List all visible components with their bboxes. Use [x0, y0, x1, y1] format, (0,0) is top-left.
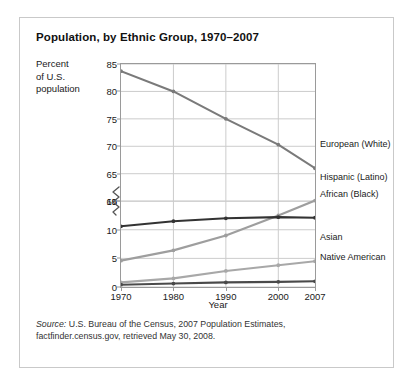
y-axis-tick-label: 10: [106, 224, 117, 235]
figure-title: Population, by Ethnic Group, 1970–2007: [36, 31, 259, 43]
y-axis-tick-mark: [117, 64, 121, 65]
y-axis-tick-label: 65: [106, 168, 117, 179]
chart-canvas: [121, 64, 315, 287]
y-axis-caption: Percent of U.S. population: [36, 58, 98, 96]
source-note: Source: U.S. Bureau of the Census, 2007 …: [36, 318, 366, 342]
y-axis-tick-label: 85: [106, 59, 117, 70]
source-label: Source:: [36, 319, 66, 329]
series-label-native-american: Native American: [320, 252, 386, 262]
y-axis-tick-label: 80: [106, 86, 117, 97]
x-axis-title: Year: [120, 299, 316, 310]
y-axis-tick-mark: [117, 118, 121, 119]
series-label-african-black: African (Black): [320, 189, 379, 199]
figure-card: Population, by Ethnic Group, 1970–2007 P…: [19, 17, 394, 368]
source-text: U.S. Bureau of the Census, 2007 Populati…: [36, 319, 285, 341]
y-axis-tick-label: 70: [106, 141, 117, 152]
x-axis-tick-mark: [121, 287, 122, 291]
series-label-asian: Asian: [320, 232, 343, 242]
y-axis-tick-label: 75: [106, 113, 117, 124]
y-axis-tick-mark: [117, 229, 121, 230]
series-label-hispanic-latino: Hispanic (Latino): [320, 172, 388, 182]
y-axis-tick-mark: [117, 146, 121, 147]
y-axis-caption-line-3: population: [36, 83, 98, 96]
x-axis-tick-mark: [226, 287, 227, 291]
x-axis-tick-mark: [173, 287, 174, 291]
y-axis-caption-line-2: of U.S.: [36, 71, 98, 84]
x-axis-tick-mark: [315, 287, 316, 291]
y-axis-tick-mark: [117, 91, 121, 92]
y-axis-break-icon: [110, 186, 122, 216]
plot-wrapper: 60657075808505101519701980199020002007 Y…: [98, 58, 316, 310]
y-axis-tick-mark: [117, 258, 121, 259]
x-axis-tick-mark: [278, 287, 279, 291]
y-axis-caption-line-1: Percent: [36, 58, 98, 71]
y-axis-tick-mark: [117, 173, 121, 174]
plot-area: 60657075808505101519701980199020002007: [120, 63, 316, 288]
series-label-european-white: European (White): [320, 139, 391, 149]
